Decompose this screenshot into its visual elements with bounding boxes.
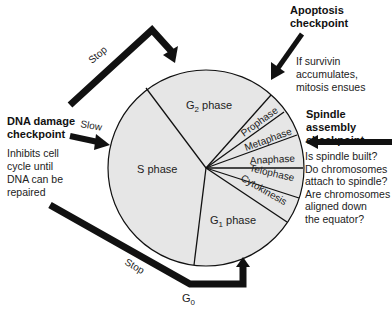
g0-label: G0 (182, 292, 196, 307)
apoptosis-checkpoint-desc: If survivin accumulates, mitosis ensues (296, 55, 365, 94)
dna-damage-checkpoint-desc: Inhibits cell cycle until DNA can be rep… (7, 147, 63, 199)
slow-label: Slow (80, 118, 104, 133)
slow-arrow-head (94, 134, 110, 150)
spindle-assembly-checkpoint-desc: Is spindle built? Do chromosomes attach … (305, 150, 390, 225)
dna-damage-checkpoint-title: DNA damage checkpoint (7, 115, 75, 141)
apoptosis-checkpoint-title: Apoptosis checkpoint (290, 4, 348, 30)
phase-label-s: S phase (137, 163, 177, 175)
spindle-assembly-checkpoint-title: Spindle assembly checkpoint (306, 108, 392, 147)
stop-label-top: Stop (86, 44, 109, 66)
